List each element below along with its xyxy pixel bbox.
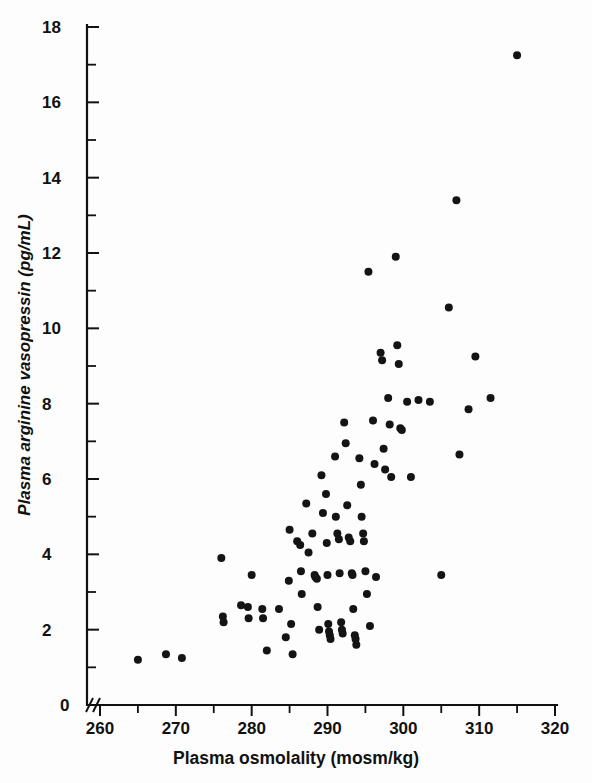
- data-point: [317, 471, 325, 479]
- data-point: [361, 567, 369, 575]
- data-point: [426, 398, 434, 406]
- x-tick-label: 300: [389, 720, 417, 737]
- plot-canvas: Plasma arginine vasopressin (pg/mL): [0, 0, 592, 783]
- y-tick-label: 6: [42, 471, 51, 488]
- data-point: [315, 626, 323, 634]
- data-point: [322, 490, 330, 498]
- data-point: [331, 452, 339, 460]
- data-point: [377, 349, 385, 357]
- data-point: [313, 575, 321, 583]
- data-point: [282, 633, 290, 641]
- data-point: [327, 635, 335, 643]
- y-tick-label: 2: [42, 621, 51, 638]
- data-point: [513, 51, 521, 59]
- data-point: [437, 571, 445, 579]
- data-point: [134, 656, 142, 664]
- data-point: [371, 460, 379, 468]
- data-point: [384, 394, 392, 402]
- data-point: [465, 405, 473, 413]
- data-point: [363, 590, 371, 598]
- data-point: [258, 605, 266, 613]
- data-point: [364, 268, 372, 276]
- scatter-plot-figure: Plasma arginine vasopressin (pg/mL) 0246…: [0, 0, 592, 783]
- y-tick-label: 14: [42, 169, 61, 186]
- y-axis-title: Plasma arginine vasopressin (pg/mL): [15, 214, 34, 516]
- data-point: [259, 614, 267, 622]
- data-point: [336, 569, 344, 577]
- data-point: [407, 473, 415, 481]
- data-point: [393, 341, 401, 349]
- data-point: [398, 426, 406, 434]
- data-point: [332, 513, 340, 521]
- x-tick-label: 310: [465, 720, 493, 737]
- data-point: [314, 603, 322, 611]
- x-tick-label: 280: [237, 720, 265, 737]
- data-point: [289, 650, 297, 658]
- y-tick-label: 10: [42, 320, 61, 337]
- data-point: [323, 539, 331, 547]
- y-tick-label: 18: [42, 19, 61, 36]
- data-point: [358, 513, 366, 521]
- data-point: [349, 605, 357, 613]
- y-tick-label: 4: [42, 546, 51, 563]
- data-point: [324, 620, 332, 628]
- data-point: [360, 537, 368, 545]
- data-point: [386, 420, 394, 428]
- data-point: [340, 419, 348, 427]
- y-tick-label: 16: [42, 94, 61, 111]
- x-tick-label: 320: [541, 720, 569, 737]
- data-point: [263, 646, 271, 654]
- data-point: [286, 526, 294, 534]
- x-tick-label: 270: [162, 720, 190, 737]
- x-tick-label: 260: [86, 720, 114, 737]
- data-point: [471, 353, 479, 361]
- data-point: [339, 629, 347, 637]
- data-point: [237, 601, 245, 609]
- data-point: [369, 417, 377, 425]
- y-tick-label: 12: [42, 245, 61, 262]
- y-axis-title-text: Plasma arginine vasopressin (pg/mL): [15, 214, 34, 516]
- data-point: [217, 554, 225, 562]
- data-point: [342, 439, 350, 447]
- data-point: [308, 530, 316, 538]
- data-point: [319, 509, 327, 517]
- data-point: [346, 537, 354, 545]
- data-point: [357, 481, 365, 489]
- data-point: [381, 466, 389, 474]
- data-point: [298, 590, 306, 598]
- data-point: [359, 530, 367, 538]
- data-point: [302, 499, 310, 507]
- data-point: [352, 641, 360, 649]
- data-point: [248, 571, 256, 579]
- y-tick-label: 8: [42, 395, 51, 412]
- x-axis-title-text: Plasma osmolality (mosm/kg): [0, 748, 592, 769]
- data-point: [445, 304, 453, 312]
- x-tick-label: 290: [313, 720, 341, 737]
- data-point: [343, 501, 351, 509]
- data-point: [305, 548, 313, 556]
- data-point: [366, 622, 374, 630]
- axes-group: [86, 25, 557, 716]
- data-point: [415, 396, 423, 404]
- data-point: [335, 535, 343, 543]
- data-point: [349, 571, 357, 579]
- data-point: [487, 394, 495, 402]
- data-point: [244, 603, 252, 611]
- data-point: [162, 650, 170, 658]
- data-point: [380, 445, 388, 453]
- data-point: [403, 398, 411, 406]
- data-point: [387, 473, 395, 481]
- data-point: [178, 654, 186, 662]
- data-point: [337, 618, 345, 626]
- data-point: [395, 360, 403, 368]
- data-point: [297, 567, 305, 575]
- data-point: [452, 196, 460, 204]
- data-point: [245, 614, 253, 622]
- data-point: [455, 451, 463, 459]
- data-point: [378, 356, 386, 364]
- data-point: [372, 573, 380, 581]
- data-points-group: [134, 51, 521, 664]
- data-point: [355, 454, 363, 462]
- data-point: [285, 577, 293, 585]
- data-point: [296, 541, 304, 549]
